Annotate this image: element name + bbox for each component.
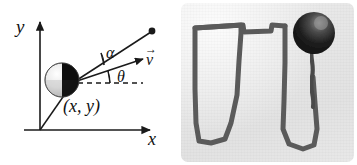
vector-arrow-accent: → [145, 43, 157, 55]
photo-string [311, 45, 313, 107]
photograph-canvas [181, 3, 354, 162]
photograph-frame [181, 3, 354, 162]
theta-angle-label: θ [117, 69, 125, 85]
velocity-arrow [74, 59, 143, 82]
coordinates-label: (x, y) [63, 97, 100, 115]
theta-angle-tick [108, 71, 110, 83]
photo-trajectory-trace [195, 25, 241, 143]
photograph-panel [178, 0, 357, 165]
two-tone-sphere [45, 63, 79, 97]
physics-figure: y x (x, y) α θ →v [0, 0, 357, 165]
endpoint-dot [149, 28, 156, 35]
alpha-angle-label: α [106, 45, 114, 61]
velocity-vector-label: →v [146, 52, 153, 68]
photo-ball [293, 12, 335, 54]
x-axis-label: x [148, 130, 156, 148]
y-axis-label: y [16, 17, 24, 36]
diagram-panel: y x (x, y) α θ →v [0, 0, 178, 165]
